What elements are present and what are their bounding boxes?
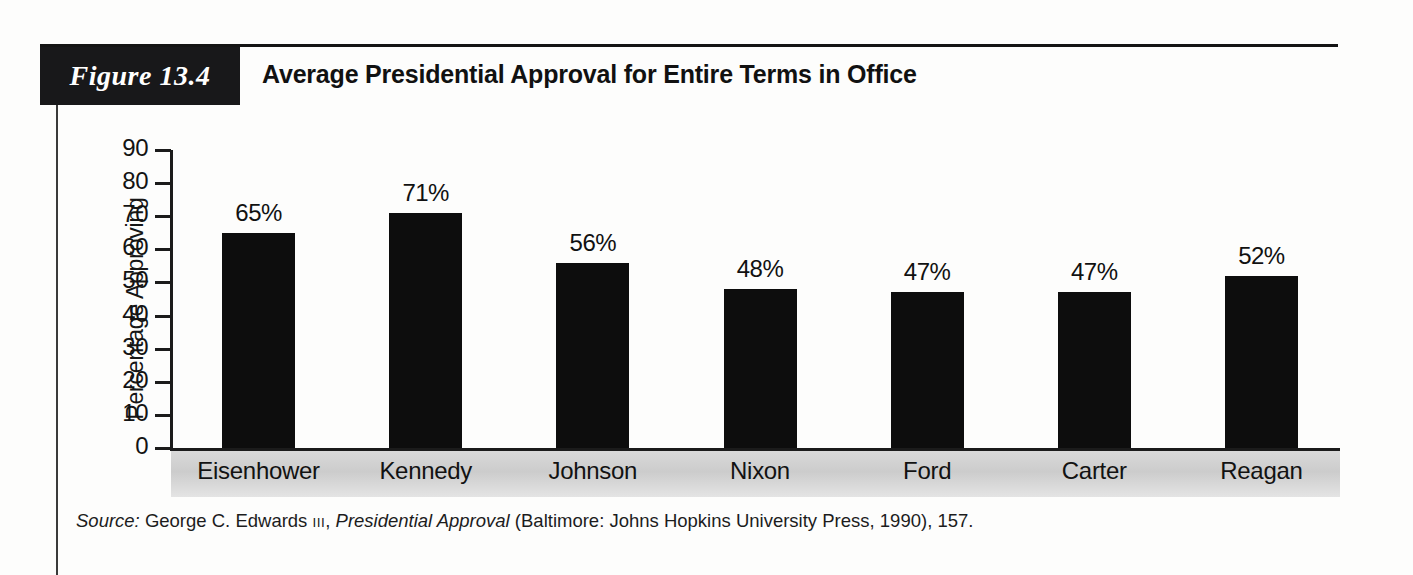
- bar-value-label: 65%: [189, 199, 329, 227]
- bar: [891, 292, 964, 448]
- bar: [556, 263, 629, 448]
- source-publication: (Baltimore: Johns Hopkins University Pre…: [510, 510, 974, 531]
- bar-value-label: 47%: [857, 258, 997, 286]
- y-tick-mark: [155, 149, 171, 152]
- y-tick-mark: [155, 447, 171, 450]
- bar-value-label: 71%: [356, 179, 496, 207]
- y-tick-label: 20: [88, 366, 148, 394]
- y-tick-label: 90: [88, 134, 148, 162]
- bar: [724, 289, 797, 448]
- y-tick-label: 10: [88, 399, 148, 427]
- bar-chart: Percentage Approving 0102030405060708090…: [0, 0, 1413, 575]
- figure-container: Figure 13.4 Average Presidential Approva…: [0, 0, 1413, 575]
- bar-value-label: 47%: [1024, 258, 1164, 286]
- y-tick-label: 0: [88, 432, 148, 460]
- y-tick-label: 50: [88, 266, 148, 294]
- bar: [1058, 292, 1131, 448]
- y-tick-mark: [155, 215, 171, 218]
- y-tick-mark: [155, 414, 171, 417]
- y-tick-label: 30: [88, 333, 148, 361]
- y-tick-mark: [155, 381, 171, 384]
- y-tick-label: 80: [88, 167, 148, 195]
- bar-value-label: 56%: [523, 229, 663, 257]
- y-tick-mark: [155, 348, 171, 351]
- y-tick-mark: [155, 281, 171, 284]
- bar: [222, 233, 295, 448]
- x-category-label: Reagan: [1161, 457, 1361, 485]
- y-tick-label: 40: [88, 300, 148, 328]
- source-separator: ,: [325, 510, 335, 531]
- bar: [1225, 276, 1298, 448]
- source-author-suffix: III: [313, 515, 326, 530]
- bar: [389, 213, 462, 448]
- source-note: Source: George C. Edwards III, President…: [76, 509, 1256, 533]
- y-tick-label: 70: [88, 200, 148, 228]
- y-tick-label: 60: [88, 233, 148, 261]
- y-tick-mark: [155, 315, 171, 318]
- source-label: Source:: [76, 510, 140, 531]
- y-tick-mark: [155, 182, 171, 185]
- source-work-title: Presidential Approval: [336, 510, 510, 531]
- y-tick-mark: [155, 248, 171, 251]
- bar-value-label: 48%: [690, 255, 830, 283]
- bar-value-label: 52%: [1191, 242, 1331, 270]
- y-axis-line: [170, 150, 173, 451]
- source-author: George C. Edwards: [140, 510, 313, 531]
